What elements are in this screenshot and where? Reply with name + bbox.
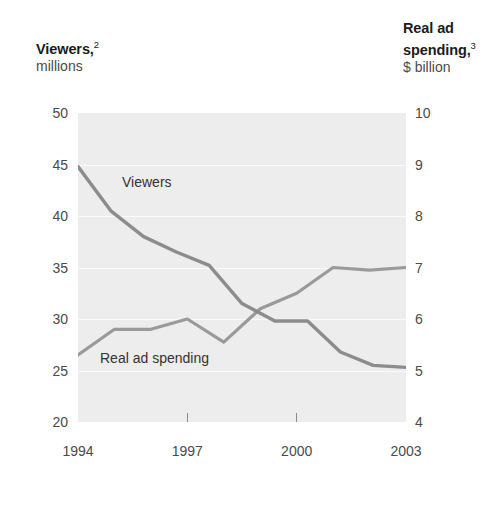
x-axis: 1994199720002003 xyxy=(0,0,490,505)
x-axis-tick-label: 2000 xyxy=(281,444,312,458)
x-axis-tick-mark xyxy=(296,413,298,422)
x-axis-tick-label: 1994 xyxy=(62,444,93,458)
x-axis-tick-mark xyxy=(187,413,189,422)
chart-figure: Viewers,2 millions Real ad spending,3 $ … xyxy=(0,0,490,505)
x-axis-tick-label: 2003 xyxy=(390,444,421,458)
x-axis-tick-label: 1997 xyxy=(172,444,203,458)
